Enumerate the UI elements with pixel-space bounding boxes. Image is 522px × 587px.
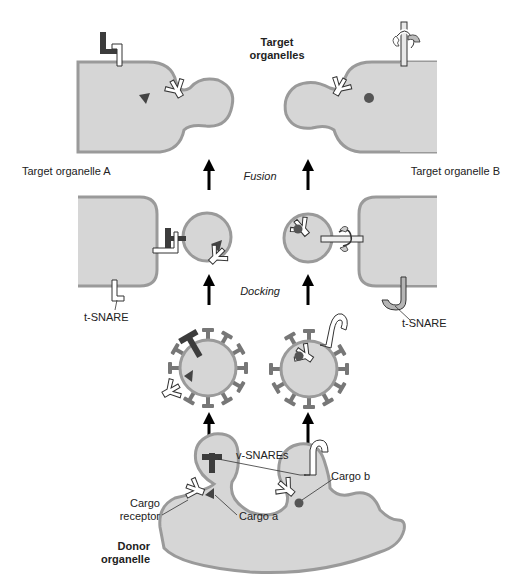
target-organelles-label: Target organelles <box>237 36 317 62</box>
cargo-b-label: Cargo b <box>331 470 370 483</box>
fusion-label: Fusion <box>232 170 288 183</box>
docking-label: Docking <box>228 285 292 298</box>
coated-vesicle-a <box>158 328 248 408</box>
target-organelle-b-label: Target organelle B <box>400 165 500 178</box>
v-snares-label: v-SNAREs <box>236 449 289 462</box>
cargo-b-icon <box>295 352 304 361</box>
donor-organelle-label-line2: organelle <box>90 553 150 566</box>
docking-vesicle-a <box>183 213 231 261</box>
cargo-receptor-icon <box>158 376 185 404</box>
t-snare-b-label: t-SNARE <box>402 317 447 330</box>
cargo-b-icon <box>364 93 374 103</box>
cargo-b-icon <box>294 225 303 234</box>
target-organelle-a-label: Target organelle A <box>22 165 111 178</box>
cargo-receptor-label: Cargo receptor <box>110 497 160 523</box>
snare-diagram: Target organelles Target organelle A Tar… <box>0 0 522 587</box>
cargo-receptor-label-line2: receptor <box>110 510 160 523</box>
donor-organelle-label-line1: Donor <box>90 540 150 553</box>
coated-vesicle-b <box>269 314 349 409</box>
target-organelle-a-fused <box>78 32 233 152</box>
cargo-a-label: Cargo a <box>239 510 278 523</box>
t-snare-a-label: t-SNARE <box>84 311 129 324</box>
target-organelles-label-line1: Target <box>237 36 317 49</box>
cargo-receptor-label-line1: Cargo <box>110 497 160 510</box>
donor-organelle-label: Donor organelle <box>90 540 150 566</box>
v-snare-b-icon <box>320 314 347 348</box>
target-organelles-label-line2: organelles <box>237 49 317 62</box>
snare-complex-b-icon <box>393 22 420 66</box>
